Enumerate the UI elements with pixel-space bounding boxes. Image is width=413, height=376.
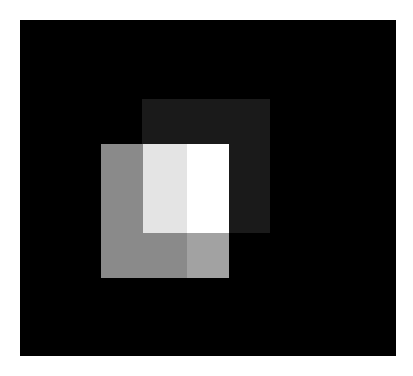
- gray-overlap-lower-right: [187, 233, 229, 278]
- white-overlap: [187, 144, 229, 233]
- light-gray-overlap: [143, 144, 187, 233]
